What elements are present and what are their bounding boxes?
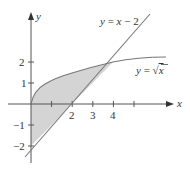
- y-tick-label-1: 1: [21, 77, 27, 89]
- x-tick-label-2: 2: [69, 109, 75, 121]
- y-tick-label-neg1: −1: [13, 119, 25, 131]
- line-label: y = x − 2: [99, 15, 139, 27]
- x-axis-label: x: [176, 97, 182, 109]
- x-axis-arrow-icon: [166, 101, 174, 107]
- curve-label: y = √x: [135, 64, 164, 76]
- y-tick-label-neg2: −2: [13, 140, 25, 152]
- graph: y x 2 3 4 2 1 −1 −2 y = x − 2 y = √x: [0, 0, 190, 169]
- y-tick-label-2: 2: [19, 56, 25, 68]
- x-tick-label-4: 4: [110, 109, 116, 121]
- y-axis-arrow-icon: [28, 12, 34, 20]
- x-tick-label-3: 3: [90, 109, 96, 121]
- y-axis-label: y: [35, 10, 41, 22]
